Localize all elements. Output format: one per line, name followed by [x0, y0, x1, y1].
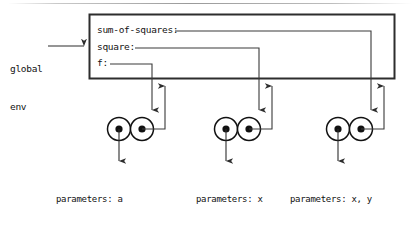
procedure-f-parameters: parameters: a	[56, 193, 164, 206]
procedure-sum-of-squares-text: parameters: x, y body: (+ (square x) (sq…	[290, 168, 394, 231]
environment-diagram-page: global env sum-of-squares: square: f: pa…	[0, 0, 419, 231]
binding-label-f: f:	[97, 57, 108, 68]
procedure-square-text: parameters: x body: (* x x)	[196, 168, 263, 231]
pointer-sum-of-squares	[175, 31, 371, 110]
global-env-label-line2: env	[10, 101, 43, 114]
procedure-f-body-line-0: body: (sum-of-squares	[56, 231, 164, 232]
procedure-pair-f	[108, 86, 166, 161]
procedure-square-parameters: parameters: x	[196, 193, 263, 206]
procedure-sum-of-squares-parameters: parameters: x, y	[290, 193, 394, 206]
procedure-square-body-line-0: body: (* x x)	[196, 231, 263, 232]
binding-label-sum-of-squares: sum-of-squares:	[97, 24, 178, 35]
procedure-sum-of-squares-body-line-0: body: (+ (square x)	[290, 231, 394, 232]
procedure-f-text: parameters: a body: (sum-of-squares (+ a…	[56, 168, 164, 231]
procedure-pair-sum-of-squares	[327, 86, 385, 161]
binding-label-square: square:	[97, 41, 135, 52]
pointer-f	[110, 64, 152, 110]
global-env-label: global env	[10, 38, 43, 138]
procedure-pair-square	[215, 86, 273, 161]
global-env-label-line1: global	[10, 63, 43, 76]
